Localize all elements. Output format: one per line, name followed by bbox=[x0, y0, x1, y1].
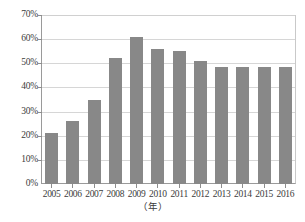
x-tick-slot bbox=[169, 184, 190, 188]
x-tick-slot bbox=[126, 184, 147, 188]
y-axis-labels: 70% 60% 50% 40% 30% 20% 10% 0% bbox=[0, 15, 38, 184]
x-tick-slot bbox=[41, 184, 62, 188]
bar-slot bbox=[41, 15, 62, 184]
bar-2013 bbox=[215, 67, 228, 184]
bar-slot bbox=[62, 15, 83, 184]
bar-2011 bbox=[173, 51, 186, 184]
x-axis-label: 2006 bbox=[62, 189, 83, 201]
bar-2010 bbox=[151, 49, 164, 184]
x-tick bbox=[285, 184, 286, 188]
y-axis-label: 70% bbox=[21, 10, 38, 19]
x-tick-slot bbox=[105, 184, 126, 188]
x-tick bbox=[157, 184, 158, 188]
x-tick-slot bbox=[275, 184, 296, 188]
bar-slot bbox=[211, 15, 232, 184]
x-tick bbox=[72, 184, 73, 188]
bar-2016 bbox=[279, 67, 292, 184]
bar-slot bbox=[232, 15, 253, 184]
x-tick-slot bbox=[190, 184, 211, 188]
bar-slot bbox=[84, 15, 105, 184]
y-axis-label: 60% bbox=[21, 34, 38, 43]
bar-slot bbox=[254, 15, 275, 184]
x-tick-slot bbox=[84, 184, 105, 188]
bar-slot bbox=[169, 15, 190, 184]
x-tick-slot bbox=[232, 184, 253, 188]
bar-slot bbox=[147, 15, 168, 184]
x-tick bbox=[200, 184, 201, 188]
bar-slot bbox=[126, 15, 147, 184]
x-tick-slot bbox=[62, 184, 83, 188]
y-axis-label: 10% bbox=[21, 155, 38, 164]
x-axis-label: 2008 bbox=[105, 189, 126, 201]
x-tick-slot bbox=[254, 184, 275, 188]
x-tick bbox=[242, 184, 243, 188]
bar-2015 bbox=[258, 67, 271, 184]
x-tick-slot bbox=[147, 184, 168, 188]
bar-slot bbox=[190, 15, 211, 184]
x-tick-slot bbox=[211, 184, 232, 188]
bar-2014 bbox=[236, 67, 249, 184]
x-axis-label: 2010 bbox=[147, 189, 168, 201]
x-tick bbox=[94, 184, 95, 188]
y-axis-label: 0% bbox=[26, 179, 38, 188]
bar-2008 bbox=[109, 58, 122, 184]
bar-slot bbox=[105, 15, 126, 184]
bar-series bbox=[41, 15, 296, 184]
bar-2006 bbox=[66, 121, 79, 184]
x-axis-label: 2014 bbox=[232, 189, 253, 201]
y-axis-label: 30% bbox=[21, 107, 38, 116]
y-axis-label: 50% bbox=[21, 58, 38, 67]
x-tick bbox=[264, 184, 265, 188]
x-tick bbox=[115, 184, 116, 188]
x-tick bbox=[136, 184, 137, 188]
x-axis-label: 2012 bbox=[190, 189, 211, 201]
x-tick bbox=[51, 184, 52, 188]
x-axis-label: 2013 bbox=[211, 189, 232, 201]
x-tick bbox=[221, 184, 222, 188]
x-tick bbox=[179, 184, 180, 188]
bar-2009 bbox=[130, 37, 143, 184]
x-axis-label: 2005 bbox=[41, 189, 62, 201]
x-axis-labels: 2005 2006 2007 2008 2009 2010 2011 2012 … bbox=[41, 189, 296, 201]
x-axis-title: （年） bbox=[0, 202, 305, 213]
bar-chart: 70% 60% 50% 40% 30% 20% 10% 0% bbox=[0, 0, 305, 222]
bar-slot bbox=[275, 15, 296, 184]
x-axis-ticks bbox=[41, 184, 296, 188]
x-axis-label: 2007 bbox=[84, 189, 105, 201]
bar-2007 bbox=[88, 100, 101, 185]
x-axis-label: 2011 bbox=[169, 189, 190, 201]
bar-2005 bbox=[45, 133, 58, 184]
x-axis-label: 2009 bbox=[126, 189, 147, 201]
bar-2012 bbox=[194, 61, 207, 184]
y-axis-label: 20% bbox=[21, 131, 38, 140]
x-axis-label: 2016 bbox=[275, 189, 296, 201]
y-axis-label: 40% bbox=[21, 82, 38, 91]
x-axis-label: 2015 bbox=[254, 189, 275, 201]
